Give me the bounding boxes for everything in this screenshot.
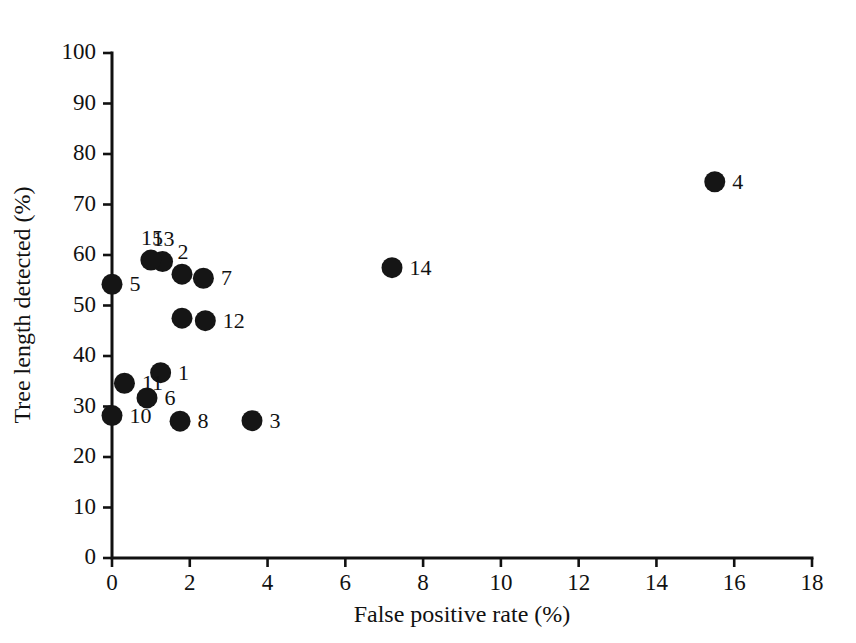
point-marker-15 <box>140 250 161 271</box>
data-point: 11 <box>114 370 163 395</box>
x-tick-label: 6 <box>340 570 352 595</box>
point-marker-11 <box>114 373 135 394</box>
x-tick-label: 12 <box>567 570 590 595</box>
point-label-3: 3 <box>270 408 281 433</box>
y-tick-label: 60 <box>73 241 96 266</box>
y-tick-label: 100 <box>62 39 97 64</box>
point-label-4: 4 <box>732 169 743 194</box>
data-point: 8 <box>170 408 209 433</box>
data-point: 14 <box>382 255 432 280</box>
y-axis-title: Tree length detected (%) <box>9 186 35 423</box>
x-tick-label: 0 <box>106 570 118 595</box>
data-point: 15 <box>140 225 163 271</box>
point-marker-8 <box>170 411 191 432</box>
point-marker-9 <box>172 308 193 329</box>
x-tick-label: 10 <box>489 570 512 595</box>
point-label-10: 10 <box>130 403 152 428</box>
point-marker-10 <box>102 405 123 426</box>
point-label-6: 6 <box>165 385 176 410</box>
data-point: 5 <box>102 271 141 296</box>
y-tick-label: 30 <box>73 393 96 418</box>
data-point: 3 <box>242 408 281 433</box>
axes <box>112 53 812 558</box>
x-tick-label: 8 <box>417 570 429 595</box>
x-tick-label: 16 <box>723 570 746 595</box>
chart-page: 0102030405060708090100 024681012141618 1… <box>0 0 856 643</box>
data-point: 4 <box>704 169 743 194</box>
point-marker-2 <box>172 264 193 285</box>
point-marker-4 <box>704 171 725 192</box>
point-label-2: 2 <box>178 239 189 264</box>
point-label-8: 8 <box>198 408 209 433</box>
y-tick-label: 10 <box>73 494 96 519</box>
x-tick-label: 18 <box>801 570 824 595</box>
data-point: 7 <box>193 265 232 290</box>
x-tick-label: 4 <box>262 570 274 595</box>
y-tick-label: 0 <box>85 544 97 569</box>
point-marker-5 <box>102 274 123 295</box>
x-tick-label: 2 <box>184 570 196 595</box>
point-label-14: 14 <box>410 255 432 280</box>
point-label-12: 12 <box>223 308 245 333</box>
y-tick-label: 70 <box>73 191 96 216</box>
point-label-11: 11 <box>142 370 163 395</box>
x-axis-title: False positive rate (%) <box>354 601 571 627</box>
point-marker-3 <box>242 410 263 431</box>
point-marker-7 <box>193 268 214 289</box>
y-tick-labels: 0102030405060708090100 <box>62 39 97 569</box>
point-marker-12 <box>195 310 216 331</box>
scatter-plot: 0102030405060708090100 024681012141618 1… <box>0 0 856 643</box>
point-label-7: 7 <box>221 265 232 290</box>
y-tick-label: 50 <box>73 292 96 317</box>
point-label-5: 5 <box>130 271 141 296</box>
data-points: 123456789101112131415 <box>102 169 744 433</box>
x-tick-label: 14 <box>645 570 669 595</box>
y-tick-label: 20 <box>73 443 96 468</box>
data-point: 12 <box>195 308 245 333</box>
point-label-15: 15 <box>141 225 163 250</box>
data-point: 2 <box>172 239 193 285</box>
point-label-1: 1 <box>178 360 189 385</box>
x-tick-labels: 024681012141618 <box>106 570 823 595</box>
point-marker-14 <box>382 257 403 278</box>
data-point: 10 <box>102 403 152 428</box>
y-tick-label: 40 <box>73 342 96 367</box>
y-tick-label: 80 <box>73 140 96 165</box>
axis-lines <box>112 53 812 558</box>
y-tick-label: 90 <box>73 90 96 115</box>
